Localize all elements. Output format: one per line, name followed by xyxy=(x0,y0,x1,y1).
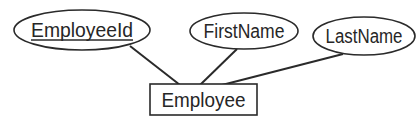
connector-firstname xyxy=(200,49,237,85)
attribute-label: LastName xyxy=(326,25,403,47)
attribute-employeeid: EmployeeId xyxy=(14,10,150,50)
attribute-firstname: FirstName xyxy=(190,13,298,49)
entity-label: Employee xyxy=(162,88,246,111)
attribute-label: FirstName xyxy=(204,20,285,42)
connector-employeeid xyxy=(130,46,180,85)
er-diagram: EmployeeId FirstName LastName Employee xyxy=(0,0,420,124)
connector-lastname xyxy=(222,54,343,85)
attribute-label: EmployeeId xyxy=(31,19,133,41)
entity-employee: Employee xyxy=(150,84,257,115)
attribute-lastname: LastName xyxy=(313,17,415,55)
